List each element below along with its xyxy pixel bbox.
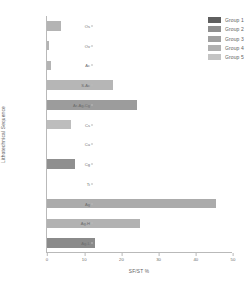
y-tick-label: Ar-Ag-Cg: [73, 102, 90, 107]
bar-chart: OsOvAcS-AcAr-Ag-CgCsCuCgTiAgAg-HAg-L 010…: [0, 0, 250, 285]
legend-item: Group 2: [208, 26, 244, 32]
y-tick-label: Ac: [85, 63, 90, 68]
legend-swatch: [208, 36, 221, 42]
x-tick-label: 0: [46, 253, 48, 262]
legend-swatch: [208, 17, 221, 23]
y-tick-mark: [91, 144, 93, 145]
y-tick-label: Ag-L: [81, 241, 90, 246]
legend-swatch: [208, 54, 221, 60]
y-tick-mark: [91, 45, 93, 46]
y-tick-label: Ov: [85, 43, 90, 48]
legend-swatch: [208, 45, 221, 51]
x-axis-title: SF/ST %: [46, 269, 232, 274]
y-axis-title: Lithotechnical Sequence: [1, 16, 11, 253]
y-tick-mark: [91, 164, 93, 165]
legend-item: Group 5: [208, 54, 244, 60]
y-tick-mark: [91, 65, 93, 66]
y-tick-label: Cs: [85, 122, 90, 127]
x-tick-label: 10: [82, 253, 87, 262]
legend-item: Group 1: [208, 17, 244, 23]
y-tick-mark: [91, 183, 93, 184]
x-tick-mark: [47, 253, 48, 256]
legend-label: Group 3: [225, 36, 244, 42]
legend-item: Group 4: [208, 45, 244, 51]
x-tick-label: 50: [231, 253, 236, 262]
y-tick-mark: [91, 25, 93, 26]
x-tick-mark: [121, 253, 122, 256]
y-axis-tick-labels: OsOvAcS-AcAr-Ag-CgCsCuCgTiAgAg-HAg-L: [47, 16, 93, 253]
legend-item: Group 3: [208, 36, 244, 42]
y-tick-mark: [91, 124, 93, 125]
x-tick-label: 30: [156, 253, 161, 262]
x-tick-mark: [84, 253, 85, 256]
y-tick-mark: [91, 243, 93, 244]
y-tick-label: Ag-H: [81, 221, 90, 226]
x-tick-label: 20: [119, 253, 124, 262]
y-tick-mark: [91, 85, 93, 86]
legend: Group 1Group 2Group 3Group 4Group 5: [208, 17, 244, 60]
y-tick-mark: [91, 223, 93, 224]
legend-swatch: [208, 26, 221, 32]
y-tick-mark: [91, 104, 93, 105]
y-tick-label: S-Ac: [81, 83, 90, 88]
legend-label: Group 1: [225, 17, 244, 23]
plot-area: OsOvAcS-AcAr-Ag-CgCsCuCgTiAgAg-HAg-L 010…: [46, 16, 232, 253]
legend-label: Group 5: [225, 54, 244, 60]
y-tick-label: Ag: [85, 201, 90, 206]
y-tick-label: Ti: [87, 181, 90, 186]
y-tick-label: Cg: [85, 162, 90, 167]
legend-label: Group 2: [225, 26, 244, 32]
x-tick-label: 40: [193, 253, 198, 262]
x-tick-mark: [233, 253, 234, 256]
x-tick-mark: [159, 253, 160, 256]
y-tick-mark: [91, 203, 93, 204]
legend-label: Group 4: [225, 45, 244, 51]
y-tick-label: Cu: [85, 142, 90, 147]
x-tick-mark: [196, 253, 197, 256]
y-tick-label: Os: [85, 23, 90, 28]
